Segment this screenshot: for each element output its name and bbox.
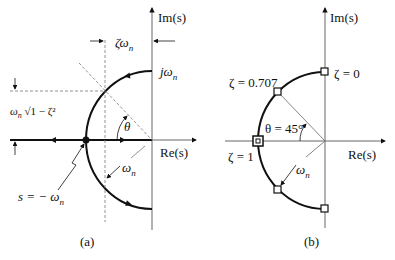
zeta-0707-label: ζ = 0.707 — [229, 76, 277, 89]
circle-locus-b — [258, 72, 325, 209]
caption-b: (b) — [304, 235, 319, 248]
omega-n-radius-label-b: ωn — [296, 163, 310, 180]
figure-graphics — [0, 0, 395, 260]
theta-45-label: θ = 45° — [265, 122, 303, 135]
zeta-omega-n-label: ζωn — [115, 36, 133, 53]
arrow-left-icon — [50, 137, 56, 143]
theta-label-a: θ — [124, 120, 130, 133]
im-axis-label-a: Im(s) — [158, 11, 186, 24]
panel-b-graphics — [225, 8, 385, 228]
zeta-1-label: ζ = 1 — [228, 150, 254, 163]
j-omega-n-label: jωn — [160, 65, 177, 82]
im-axis-label-b: Im(s) — [330, 11, 358, 24]
pole-label: s = − ωn — [18, 190, 64, 207]
omega-n-radius-label-a: ωn — [122, 161, 136, 178]
arrow-right-icon — [120, 137, 126, 143]
marker-zeta-0 — [321, 68, 328, 75]
zeta-0-label: ζ = 0 — [334, 67, 360, 80]
caption-a: (a) — [80, 235, 94, 248]
root-loci-figure: Im(s) Re(s) ζωn jωn ωn √1 − ζ² θ ωn s = … — [0, 0, 395, 260]
re-axis-label-b: Re(s) — [348, 148, 376, 161]
re-axis-label-a: Re(s) — [160, 146, 188, 159]
double-pole-a — [83, 137, 90, 144]
damped-freq-label: ωn √1 − ζ² — [10, 106, 56, 120]
